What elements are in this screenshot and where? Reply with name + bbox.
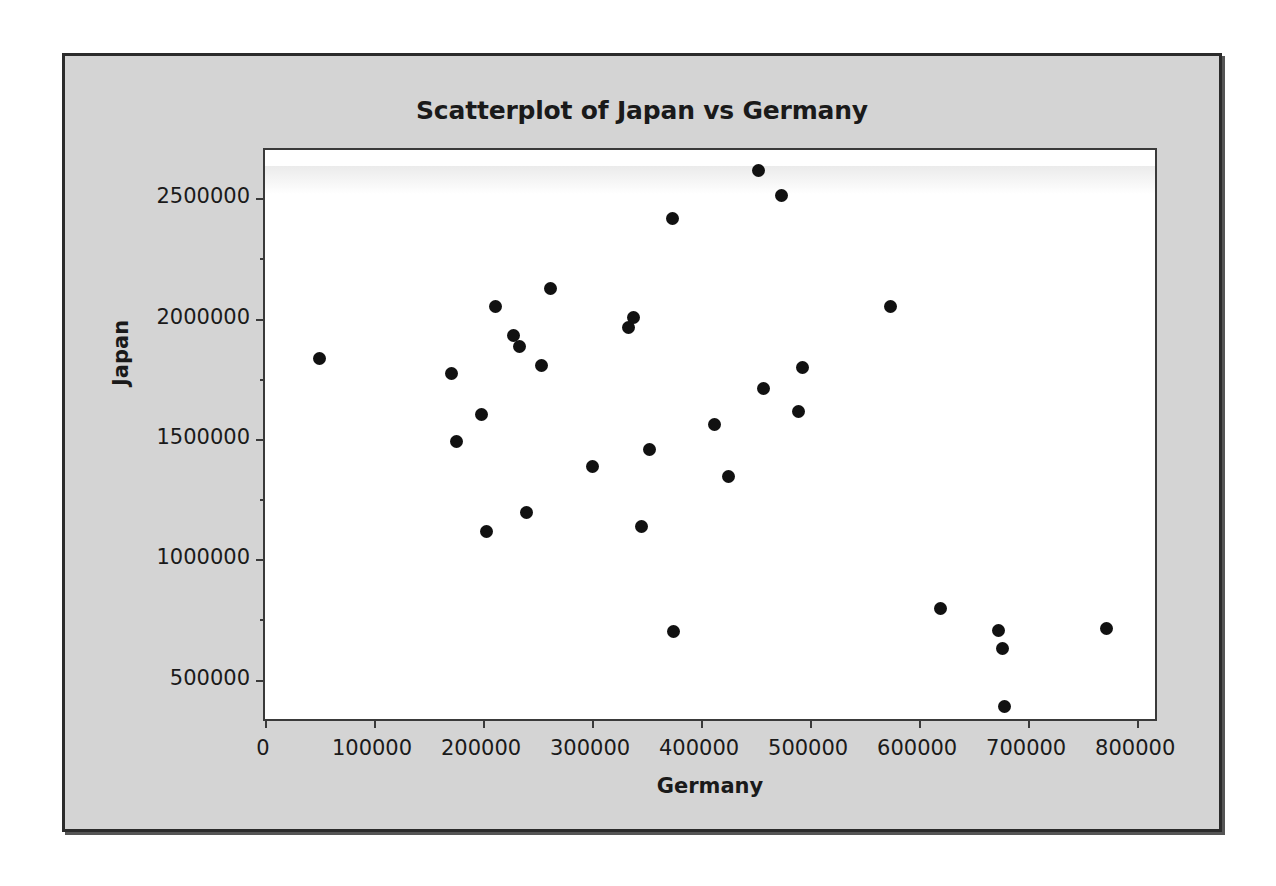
x-tick-label: 800000 (1095, 736, 1175, 760)
data-point (757, 382, 770, 395)
y-tick-label: 1500000 (156, 425, 250, 449)
x-tick-label: 300000 (550, 736, 630, 760)
data-point (627, 311, 640, 324)
data-point (792, 405, 805, 418)
data-point (520, 506, 533, 519)
data-point (992, 624, 1005, 637)
data-point (884, 300, 897, 313)
x-tick-mark (592, 719, 594, 728)
y-tick-mark (256, 198, 265, 200)
data-point (775, 189, 788, 202)
x-tick-mark (265, 719, 267, 728)
x-tick-label: 700000 (986, 736, 1066, 760)
x-tick-mark (374, 719, 376, 728)
data-point (450, 435, 463, 448)
data-point (535, 359, 548, 372)
x-tick-label: 600000 (877, 736, 957, 760)
data-point (313, 352, 326, 365)
y-tick-mark (256, 680, 265, 682)
data-point (489, 300, 502, 313)
y-minor-tick-mark (260, 619, 265, 621)
data-point (752, 164, 765, 177)
y-tick-mark (256, 439, 265, 441)
data-point (998, 700, 1011, 713)
data-point (445, 367, 458, 380)
y-tick-label: 2500000 (156, 184, 250, 208)
x-axis-tick-labels: 0100000200000300000400000500000600000700… (263, 736, 1157, 768)
y-minor-tick-mark (260, 258, 265, 260)
y-minor-tick-mark (260, 379, 265, 381)
data-point (708, 418, 721, 431)
data-point (513, 340, 526, 353)
plot-panel[interactable] (263, 148, 1157, 721)
x-tick-mark (701, 719, 703, 728)
y-tick-label: 1000000 (156, 545, 250, 569)
x-tick-mark (1028, 719, 1030, 728)
page-canvas: Scatterplot of Japan vs Germany 50000010… (0, 0, 1276, 886)
data-point (996, 642, 1009, 655)
data-point (586, 460, 599, 473)
y-minor-tick-mark (260, 499, 265, 501)
data-point (934, 602, 947, 615)
x-tick-label: 100000 (332, 736, 412, 760)
data-point (475, 408, 488, 421)
x-tick-label: 0 (256, 736, 269, 760)
data-point (1100, 622, 1113, 635)
data-point (643, 443, 656, 456)
data-point (722, 470, 735, 483)
data-point (667, 625, 680, 638)
chart-object-frame[interactable]: Scatterplot of Japan vs Germany 50000010… (62, 53, 1222, 832)
data-point (480, 525, 493, 538)
data-point (666, 212, 679, 225)
y-axis-tick-labels: 5000001000000150000020000002500000 (65, 148, 250, 721)
x-tick-mark (810, 719, 812, 728)
data-point (796, 361, 809, 374)
x-tick-mark (919, 719, 921, 728)
y-axis-title: Japan (109, 320, 133, 386)
y-tick-label: 500000 (170, 666, 250, 690)
panel-sheen-artifact (265, 166, 1155, 206)
y-tick-mark (256, 559, 265, 561)
x-axis-title: Germany (263, 774, 1157, 798)
x-tick-mark (1137, 719, 1139, 728)
x-tick-label: 200000 (441, 736, 521, 760)
data-point (635, 520, 648, 533)
x-tick-label: 400000 (659, 736, 739, 760)
x-tick-mark (483, 719, 485, 728)
y-tick-label: 2000000 (156, 305, 250, 329)
chart-title: Scatterplot of Japan vs Germany (65, 96, 1219, 125)
data-point (544, 282, 557, 295)
x-tick-label: 500000 (768, 736, 848, 760)
y-tick-mark (256, 319, 265, 321)
